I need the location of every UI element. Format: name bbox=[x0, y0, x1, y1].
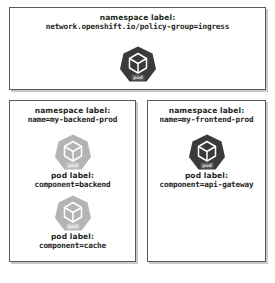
pod-label-value: component=api-gateway bbox=[149, 180, 264, 190]
namespace-label-title: namespace label: bbox=[11, 106, 134, 115]
namespace-label-frontend: namespace label: name=my-frontend-prod bbox=[148, 106, 265, 125]
pod-label-api-gateway: pod label: component=api-gateway bbox=[148, 171, 265, 190]
kubernetes-pod-icon: pod bbox=[188, 133, 226, 173]
diagram-canvas: namespace label: network.openshift.io/po… bbox=[0, 0, 275, 283]
pod-icon-caption: pod bbox=[68, 163, 78, 168]
pod-icon-caption: pod bbox=[202, 163, 212, 168]
namespace-label-value: network.openshift.io/policy-group=ingres… bbox=[11, 22, 264, 32]
pod-icon-caption: pod bbox=[68, 224, 78, 229]
pod-node-api-gateway[interactable]: pod bbox=[148, 133, 265, 173]
pod-label-title: pod label: bbox=[11, 171, 134, 180]
namespace-box-ingress[interactable]: namespace label: network.openshift.io/po… bbox=[9, 7, 266, 90]
pod-label-title: pod label: bbox=[149, 171, 264, 180]
pod-node-backend[interactable]: pod bbox=[10, 133, 135, 173]
pod-label-value: component=backend bbox=[11, 180, 134, 190]
namespace-label-backend: namespace label: name=my-backend-prod bbox=[10, 106, 135, 125]
pod-label-backend: pod label: component=backend bbox=[10, 171, 135, 190]
pod-label-title: pod label: bbox=[11, 232, 134, 241]
pod-node-ingress[interactable]: pod bbox=[10, 45, 265, 85]
pod-label-cache: pod label: component=cache bbox=[10, 232, 135, 251]
namespace-box-backend[interactable]: namespace label: name=my-backend-prod po… bbox=[9, 100, 136, 262]
namespace-box-frontend[interactable]: namespace label: name=my-frontend-prod p… bbox=[147, 100, 266, 262]
namespace-label-value: name=my-backend-prod bbox=[11, 115, 134, 125]
kubernetes-pod-icon: pod bbox=[54, 194, 92, 234]
namespace-label-title: namespace label: bbox=[149, 106, 264, 115]
kubernetes-pod-icon: pod bbox=[54, 133, 92, 173]
namespace-label-ingress: namespace label: network.openshift.io/po… bbox=[10, 13, 265, 32]
namespace-label-title: namespace label: bbox=[11, 13, 264, 22]
kubernetes-pod-icon: pod bbox=[119, 45, 157, 85]
pod-icon-caption: pod bbox=[133, 75, 143, 80]
pod-label-value: component=cache bbox=[11, 241, 134, 251]
pod-node-cache[interactable]: pod bbox=[10, 194, 135, 234]
namespace-label-value: name=my-frontend-prod bbox=[149, 115, 264, 125]
